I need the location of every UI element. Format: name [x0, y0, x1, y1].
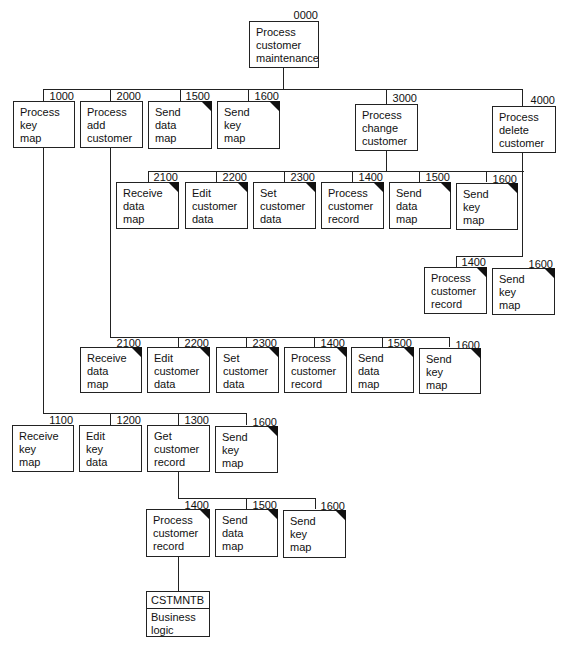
module-label: Process customer record: [431, 272, 486, 311]
module-label: Get customer record: [154, 430, 209, 469]
module-label: Set customer data: [223, 352, 278, 391]
module-box-1200: Edit key data: [79, 425, 142, 472]
module-box-root: Process customer maintenance: [249, 21, 319, 68]
module-box-1500: Send data map: [389, 182, 451, 229]
module-box-1500: Send data map: [148, 101, 212, 149]
module-label: Send key map: [499, 273, 554, 312]
module-label: Receive data map: [123, 187, 178, 226]
module-code: 4000: [515, 94, 555, 106]
module-box-1500: Send data map: [215, 509, 278, 557]
module-box-1400: Process customer record: [424, 267, 487, 314]
module-label: Send key map: [463, 188, 517, 227]
module-box-1400: Process customer record: [321, 182, 384, 229]
module-code: 3000: [377, 92, 417, 104]
external-module-label: Business logic: [147, 609, 209, 639]
module-box-1600: Send key map: [456, 183, 518, 230]
module-label: Process change customer: [362, 109, 417, 148]
module-box-2200: Edit customer data: [185, 182, 248, 229]
module-box-1100: Receive key map: [12, 425, 74, 472]
module-box-1600: Send key map: [283, 510, 346, 558]
module-label: Send data map: [358, 352, 413, 391]
module-label: Process customer record: [291, 352, 346, 391]
connector: [43, 147, 44, 413]
module-label: Send data map: [396, 187, 450, 226]
module-label: Send data map: [155, 106, 211, 145]
connector: [283, 68, 284, 89]
module-label: Send key map: [290, 515, 345, 554]
module-box-1600: Send key map: [217, 101, 280, 149]
external-module-cstmntb: CSTMNTB Business logic: [146, 591, 210, 637]
module-label: Send key map: [224, 106, 279, 145]
module-label: Receive data map: [87, 352, 141, 391]
module-box-1500: Send data map: [351, 347, 414, 393]
module-label: Process key map: [20, 106, 74, 145]
module-box-1600: Send key map: [215, 426, 278, 473]
module-box-1300: Get customer record: [147, 425, 210, 472]
module-label: Process customer record: [153, 514, 209, 553]
connector: [522, 153, 523, 256]
module-label: Process delete customer: [499, 111, 555, 150]
external-module-name: CSTMNTB: [147, 592, 209, 609]
module-box-2100: Receive data map: [80, 347, 142, 393]
module-label: Edit key data: [86, 430, 141, 469]
module-box-2100: Receive data map: [116, 182, 179, 229]
module-box-1400: Process customer record: [146, 509, 210, 557]
module-label: Send data map: [222, 514, 277, 553]
module-label: Send key map: [222, 431, 277, 470]
module-label: Set customer data: [260, 187, 315, 226]
module-box-1400: Process customer record: [284, 347, 347, 393]
module-label: Edit customer data: [154, 352, 209, 391]
module-label: Send key map: [426, 353, 480, 392]
structure-chart: 0000 Process customer maintenance 1000 P…: [0, 0, 567, 649]
module-box-2200: Edit customer data: [147, 347, 210, 393]
module-label: Edit customer data: [192, 187, 247, 226]
module-box-4000: Process delete customer: [492, 106, 556, 153]
connector: [178, 472, 179, 498]
connector: [148, 171, 524, 172]
module-box-2300: Set customer data: [253, 182, 316, 229]
module-label: Receive key map: [19, 430, 73, 469]
connector: [110, 147, 111, 337]
module-label: Process customer maintenance: [256, 26, 318, 65]
module-box-1600: Send key map: [492, 268, 555, 315]
connector: [386, 150, 387, 171]
module-box-2000: Process add customer: [80, 101, 143, 148]
module-box-3000: Process change customer: [355, 104, 418, 151]
module-box-1000: Process key map: [13, 101, 75, 148]
module-label: Process add customer: [87, 106, 142, 145]
module-code: 0000: [278, 9, 318, 21]
connector: [178, 557, 179, 591]
module-label: Process customer record: [328, 187, 383, 226]
module-box-1600: Send key map: [419, 348, 481, 394]
connector: [43, 413, 247, 414]
module-box-2300: Set customer data: [216, 347, 279, 393]
